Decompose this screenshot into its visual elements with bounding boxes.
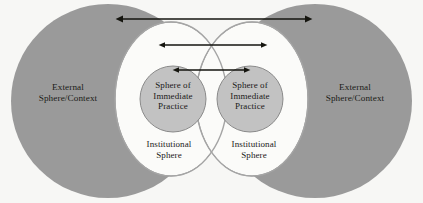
diagram-svg: [0, 0, 423, 203]
immediate-practice-left-shape: [140, 66, 206, 132]
diagram-canvas: External Sphere/Context External Sphere/…: [0, 0, 423, 203]
immediate-practice-right-shape: [217, 66, 283, 132]
